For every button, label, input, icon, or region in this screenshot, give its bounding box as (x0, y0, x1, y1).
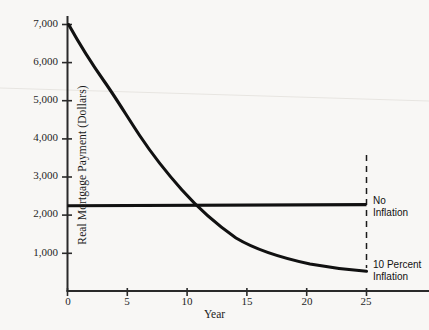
ytick-label: 7,000 (16, 17, 58, 29)
series-10-percent-inflation-line (69, 25, 367, 272)
xtick-label: 10 (173, 295, 201, 307)
xtick-label: 20 (293, 295, 321, 307)
xtick-label: 5 (113, 295, 141, 307)
ytick-label: 3,000 (16, 169, 58, 181)
series-label-10-percent-inflation-line2: Inflation (373, 271, 421, 283)
ytick-label: 5,000 (16, 93, 58, 105)
x-axis-title: Year (0, 308, 429, 320)
series-label-no-inflation-line2: Inflation (373, 207, 408, 219)
series-label-10-percent-inflation: 10 Percent Inflation (373, 259, 421, 282)
scan-crease-artifact (0, 88, 429, 101)
series-label-10-percent-inflation-line1: 10 Percent (373, 259, 421, 271)
plot-area (0, 0, 429, 330)
y-axis-title: Real Mortgage Payment (Dollars) (76, 85, 88, 244)
ytick-label: 4,000 (16, 131, 58, 143)
series-label-no-inflation: No Inflation (373, 195, 408, 218)
ytick-label: 1,000 (16, 246, 58, 258)
xtick-label: 15 (233, 295, 261, 307)
series-label-no-inflation-line1: No (373, 195, 408, 207)
xtick-label: 0 (54, 295, 82, 307)
series-no-inflation-line (68, 205, 367, 206)
ytick-label: 2,000 (16, 207, 58, 219)
xtick-label: 25 (352, 295, 380, 307)
chart-figure: 7,000 6,000 5,000 4,000 3,000 2,000 1,00… (0, 0, 429, 330)
ytick-label: 6,000 (16, 55, 58, 67)
